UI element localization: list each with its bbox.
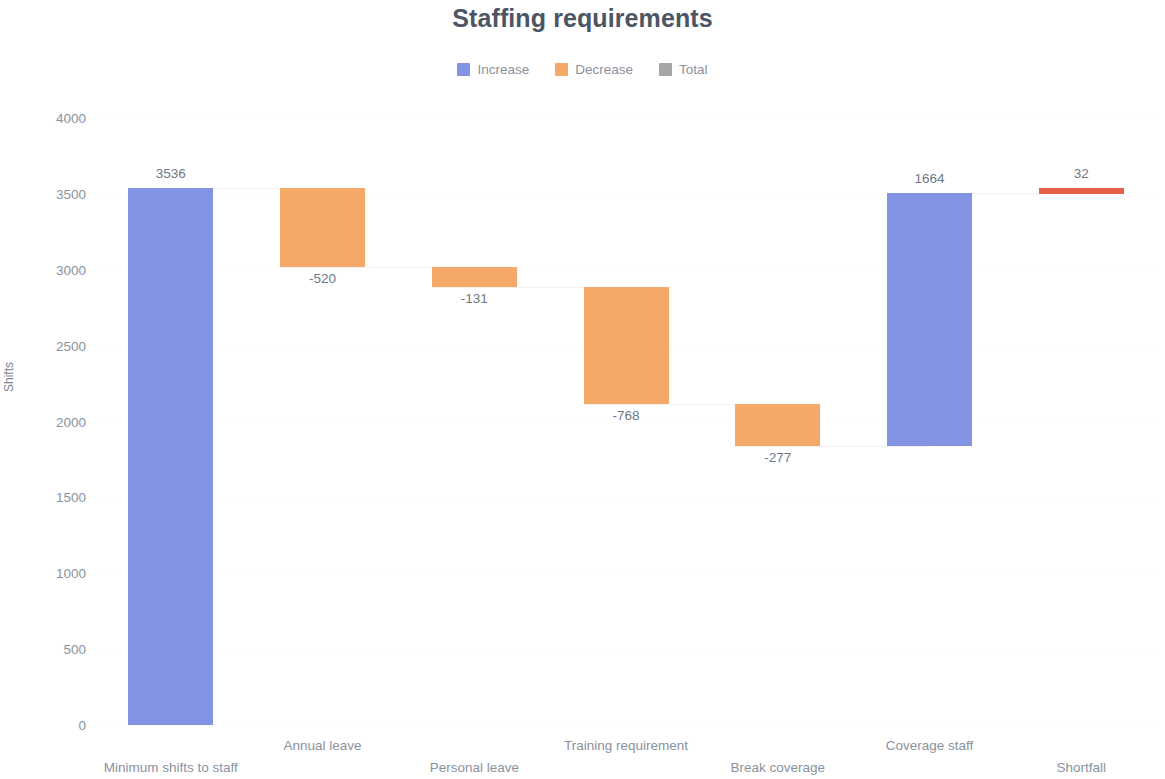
bar-data-label: -520 xyxy=(309,271,336,286)
bar-data-label: 1664 xyxy=(914,171,944,186)
bar-minimum-shifts-to-staff[interactable] xyxy=(128,188,213,725)
plot-area: Shifts 400035003000250020001500100050003… xyxy=(0,0,1165,779)
x-axis-label-break-coverage: Break coverage xyxy=(730,760,825,775)
bar-personal-leave[interactable] xyxy=(432,267,517,287)
gridline xyxy=(95,649,1157,650)
y-axis-tick-label: 1500 xyxy=(26,490,86,505)
y-axis-tick-label: 3000 xyxy=(26,262,86,277)
waterfall-chart: Staffing requirements IncreaseDecreaseTo… xyxy=(0,0,1165,779)
gridline xyxy=(95,118,1157,119)
gridline xyxy=(95,497,1157,498)
y-axis-tick-label: 1000 xyxy=(26,566,86,581)
bar-data-label: 32 xyxy=(1074,166,1089,181)
y-axis-tick-label: 2000 xyxy=(26,414,86,429)
x-axis-label-personal-leave: Personal leave xyxy=(430,760,519,775)
y-axis-tick-label: 2500 xyxy=(26,338,86,353)
x-axis-label-shortfall: Shortfall xyxy=(1056,760,1106,775)
x-axis-label-annual-leave: Annual leave xyxy=(284,738,362,753)
x-axis-label-coverage-staff: Coverage staff xyxy=(886,738,974,753)
bar-data-label: -768 xyxy=(612,408,639,423)
y-axis-tick-label: 3500 xyxy=(26,186,86,201)
gridline xyxy=(95,270,1157,271)
waterfall-connector xyxy=(735,446,929,447)
y-axis-tick-label: 0 xyxy=(26,718,86,733)
x-axis-label-training-requirement: Training requirement xyxy=(564,738,688,753)
bar-training-requirement[interactable] xyxy=(584,287,669,404)
bar-annual-leave[interactable] xyxy=(280,188,365,267)
bar-data-label: -131 xyxy=(461,291,488,306)
gridline xyxy=(95,573,1157,574)
bar-data-label: 3536 xyxy=(156,166,186,181)
bar-coverage-staff[interactable] xyxy=(887,193,972,446)
bar-data-label: -277 xyxy=(764,450,791,465)
x-axis-label-minimum-shifts-to-staff: Minimum shifts to staff xyxy=(104,760,238,775)
y-axis-tick-label: 4000 xyxy=(26,111,86,126)
bar-shortfall[interactable] xyxy=(1039,188,1124,194)
y-axis-title: Shifts xyxy=(2,362,16,392)
y-axis-tick-label: 500 xyxy=(26,642,86,657)
gridline xyxy=(95,725,1157,726)
bar-break-coverage[interactable] xyxy=(735,404,820,446)
